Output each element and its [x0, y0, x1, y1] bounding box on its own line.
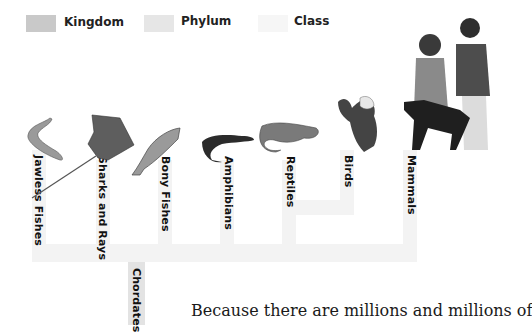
branch-horizontal-base	[32, 244, 417, 262]
class-label-mammals: Mammals	[405, 155, 418, 215]
body-paragraph-text: Because there are millions and millions …	[191, 301, 532, 320]
legend-swatch-class	[258, 15, 288, 32]
stingray-illustration	[30, 110, 140, 200]
lizard-illustration	[256, 118, 326, 158]
class-label-birds: Birds	[342, 155, 355, 188]
trout-illustration	[130, 125, 186, 181]
people-and-dog-illustration	[400, 10, 500, 155]
legend-swatch-phylum	[144, 15, 174, 32]
legend-swatch-kingdom	[26, 15, 56, 32]
legend-label-class: Class	[294, 14, 329, 28]
eagle-illustration	[334, 92, 384, 154]
phylum-label-chordates: Chordates	[130, 268, 143, 332]
legend-label-phylum: Phylum	[181, 14, 231, 28]
legend-label-kingdom: Kingdom	[64, 15, 124, 29]
class-label-reptiles: Reptiles	[284, 156, 297, 207]
class-label-amphibians: Amphibians	[222, 156, 235, 230]
salamander-illustration	[198, 130, 258, 166]
